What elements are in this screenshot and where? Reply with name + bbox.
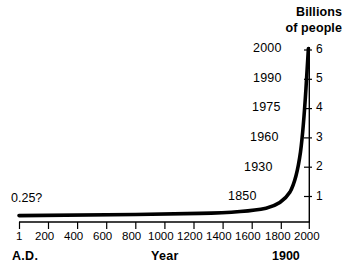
x-tick-label-600: 600 <box>93 231 112 243</box>
x-tick-label-1000: 1000 <box>148 231 174 243</box>
x-tick-label-1400: 1400 <box>206 231 232 243</box>
annotation-2000: 2000 <box>253 42 282 55</box>
annotation-1990: 1990 <box>253 72 282 85</box>
y-axis-title-line-1: Billions <box>268 6 342 19</box>
x-tick-label-1600: 1600 <box>235 231 261 243</box>
y-tick-label-4: 4 <box>316 101 323 113</box>
annotation-1930: 1930 <box>244 161 273 174</box>
x-tick-label-2000: 2000 <box>294 231 320 243</box>
y-tick-label-6: 6 <box>316 43 323 55</box>
y-tick-label-2: 2 <box>316 160 323 172</box>
x-tick-label-1800: 1800 <box>265 231 291 243</box>
y-axis-title: Billions of people <box>268 6 342 34</box>
y-tick-label-5: 5 <box>316 72 323 84</box>
x-tick-label-400: 400 <box>64 231 83 243</box>
y-axis-title-line-2: of people <box>268 22 342 35</box>
y-tick-label-3: 3 <box>316 131 323 143</box>
population-growth-chart: Billions of people 6 5 4 3 2 1 2000 1990… <box>0 0 345 273</box>
x-tick-label-800: 800 <box>122 231 141 243</box>
x-tick-label-1200: 1200 <box>177 231 203 243</box>
x-tick-label-200: 200 <box>35 231 54 243</box>
x-axis-era-label: A.D. <box>12 250 38 263</box>
annotation-1850: 1850 <box>228 190 257 203</box>
annotation-1960: 1960 <box>250 131 279 144</box>
annotation-start-value: 0.25? <box>11 192 42 205</box>
x-axis-ticks <box>20 222 310 229</box>
x-tick-label-1: 1 <box>16 231 22 243</box>
x-axis-title: Year <box>151 250 179 263</box>
annotation-1900-footnote: 1900 <box>272 250 300 263</box>
y-tick-label-1: 1 <box>316 190 323 202</box>
annotation-1975: 1975 <box>252 101 281 114</box>
